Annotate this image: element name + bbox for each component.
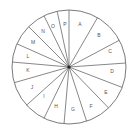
segment-label-n: N [41,28,45,34]
segment-label-c: C [108,48,112,54]
segment-label-m: M [31,39,35,45]
segment-label-h: H [54,103,58,109]
segment-label-f: F [89,103,92,109]
segment-label-g: G [71,106,75,112]
segment-label-i: I [43,93,44,99]
segment-label-d: D [110,68,114,74]
segmented-wheel-diagram: ABCDEFGHIJKLMNOP [0,0,136,133]
segment-label-l: L [27,53,30,59]
segment-label-o: O [51,23,55,29]
wheel-hub [67,65,70,68]
